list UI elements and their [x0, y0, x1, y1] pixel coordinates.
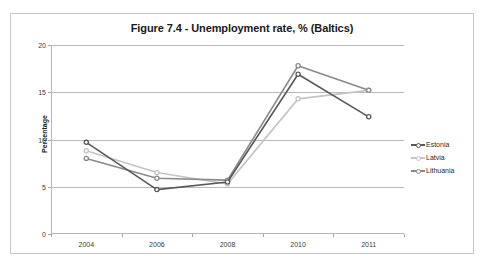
data-point: [296, 64, 300, 68]
legend-label: Estonia: [426, 141, 449, 148]
legend-marker-icon: [411, 167, 425, 174]
series-line-lithuania: [86, 66, 368, 180]
legend-item-lithuania[interactable]: Lithuania: [411, 164, 473, 177]
chart-title: Figure 7.4 - Unemployment rate, % (Balti…: [11, 22, 473, 34]
x-tick-label: 2010: [290, 241, 306, 248]
data-point: [155, 176, 159, 180]
x-tick-label: 2006: [149, 241, 165, 248]
legend-marker-icon: [411, 154, 425, 161]
legend-item-estonia[interactable]: Estonia: [411, 138, 473, 151]
legend-label: Latvia: [426, 154, 445, 161]
x-tickmark: [263, 234, 264, 237]
y-tick-label: 15: [38, 89, 46, 96]
legend-label: Lithuania: [426, 167, 454, 174]
y-tick-label: 5: [42, 183, 46, 190]
data-point: [296, 72, 300, 76]
y-tick-label: 0: [42, 231, 46, 238]
chart-legend: EstoniaLatviaLithuania: [411, 138, 473, 177]
data-point: [367, 115, 371, 119]
x-tickmark: [333, 234, 334, 237]
data-point: [296, 97, 300, 101]
data-point: [155, 170, 159, 174]
data-point: [367, 88, 371, 92]
x-tickmark: [192, 234, 193, 237]
legend-marker-icon: [411, 141, 425, 148]
data-point: [84, 140, 88, 144]
data-point: [225, 180, 229, 184]
y-tick-label: 20: [38, 42, 46, 49]
series-line-estonia: [86, 74, 368, 189]
x-tickmark: [404, 234, 405, 237]
legend-item-latvia[interactable]: Latvia: [411, 151, 473, 164]
series-lines: [51, 45, 404, 234]
y-tick-label: 10: [38, 136, 46, 143]
plot-area: 05101520 20042006200820102011: [51, 45, 404, 234]
x-tick-label: 2008: [220, 241, 236, 248]
x-tick-label: 2004: [79, 241, 95, 248]
x-tick-label: 2011: [361, 241, 376, 248]
y-axis-title: Percentage: [41, 115, 48, 153]
chart-frame: Figure 7.4 - Unemployment rate, % (Balti…: [10, 13, 474, 254]
x-tickmark: [122, 234, 123, 237]
x-tickmark: [51, 234, 52, 237]
data-point: [84, 149, 88, 153]
data-point: [84, 156, 88, 160]
data-point: [155, 187, 159, 191]
